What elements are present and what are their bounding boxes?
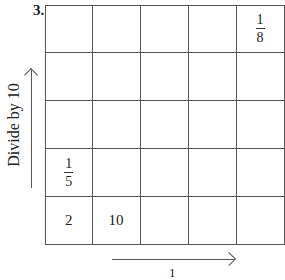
grid-cell[interactable]: 15 (46, 149, 93, 197)
grid-cell[interactable] (93, 101, 141, 149)
grid-cell[interactable] (46, 6, 93, 53)
grid-cell[interactable] (189, 101, 237, 149)
fraction-value: 15 (64, 156, 73, 189)
fraction-bar (256, 28, 265, 29)
grid-cell[interactable] (141, 6, 189, 53)
cell-value: 2 (65, 212, 73, 229)
grid-cell[interactable] (237, 53, 285, 101)
vertical-axis-label: Divide by 10 (5, 83, 23, 167)
grid-cell[interactable] (237, 197, 285, 245)
numerator: 1 (257, 12, 264, 27)
fraction-value: 18 (256, 12, 265, 45)
grid-cell[interactable]: 2 (46, 197, 93, 245)
horizontal-axis-label: 1 (169, 266, 176, 279)
grid-cell[interactable]: 10 (93, 197, 141, 245)
up-arrow-icon (31, 70, 32, 188)
numerator: 1 (65, 156, 72, 171)
cell-value: 10 (109, 212, 124, 229)
grid-cell[interactable] (141, 197, 189, 245)
number-grid: 1815210 (45, 5, 285, 245)
grid-cell[interactable] (141, 53, 189, 101)
denominator: 5 (65, 174, 72, 189)
grid-cell[interactable] (46, 53, 93, 101)
grid-cell[interactable] (189, 6, 237, 53)
grid-cell[interactable] (189, 53, 237, 101)
grid-cell[interactable] (141, 149, 189, 197)
grid-cell[interactable] (189, 149, 237, 197)
fraction-bar (64, 172, 73, 173)
grid-cell[interactable] (237, 101, 285, 149)
grid-cell[interactable] (237, 149, 285, 197)
grid-cell[interactable] (141, 101, 189, 149)
denominator: 8 (257, 30, 264, 45)
grid-cell[interactable] (93, 6, 141, 53)
right-arrow-icon (112, 259, 234, 260)
problem-number: 3. (33, 2, 44, 19)
grid-cell[interactable] (46, 101, 93, 149)
grid-cell[interactable] (189, 197, 237, 245)
grid-cell[interactable]: 18 (237, 6, 285, 53)
grid-cell[interactable] (93, 53, 141, 101)
grid-cell[interactable] (93, 149, 141, 197)
